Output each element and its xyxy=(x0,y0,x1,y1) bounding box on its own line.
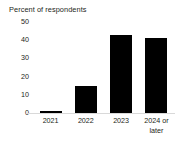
y-axis: 01020304050 xyxy=(3,0,29,141)
y-tick-label: 10 xyxy=(5,91,29,99)
y-tick-label: 20 xyxy=(5,73,29,81)
y-tick-label: 30 xyxy=(5,54,29,62)
y-tick-label: 40 xyxy=(5,36,29,44)
x-tick-label: 2023 xyxy=(101,116,141,126)
y-tick-label: 50 xyxy=(5,18,29,26)
x-axis: 2021202220232024 or later xyxy=(33,0,174,141)
x-tick-label: 2021 xyxy=(31,116,71,126)
bar-chart-figure: Percent of respondents 01020304050 20212… xyxy=(0,0,178,141)
x-tick-label: 2022 xyxy=(66,116,106,126)
x-tick-label: 2024 or later xyxy=(136,116,176,135)
